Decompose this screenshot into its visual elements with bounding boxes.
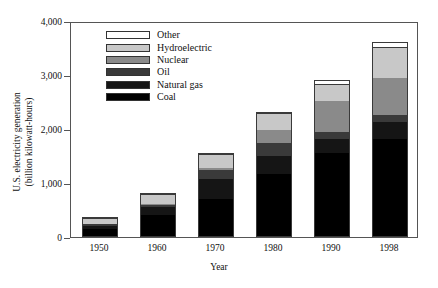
x-tick-label-1980: 1980 xyxy=(264,243,283,253)
bar-segment-1990-hydroelectric xyxy=(314,85,350,101)
legend-item-coal: Coal xyxy=(106,91,212,103)
legend-item-other: Other xyxy=(106,29,212,41)
bar-1970 xyxy=(198,154,234,237)
bar-segment-1990-coal xyxy=(314,153,350,237)
bar-segment-1960-coal xyxy=(140,215,176,237)
bar-segment-1970-nuclear xyxy=(198,168,234,169)
bar-segment-1998-nuclear xyxy=(372,78,408,115)
y-tick-label: 4,000 xyxy=(0,17,62,27)
legend-label: Natural gas xyxy=(157,80,203,90)
bar-segment-1990-nuclear xyxy=(314,101,350,132)
legend-item-oil: Oil xyxy=(106,66,212,78)
bar-segment-1998-oil xyxy=(372,115,408,122)
legend-label: Coal xyxy=(157,92,176,102)
legend-item-nuclear: Nuclear xyxy=(106,54,212,66)
bar-segment-1990-natural-gas xyxy=(314,139,350,153)
x-axis-title: Year xyxy=(0,262,438,272)
chart-legend: OtherHydroelectricNuclearOilNatural gasC… xyxy=(106,29,212,103)
legend-label: Nuclear xyxy=(157,55,189,65)
bar-segment-1970-coal xyxy=(198,199,234,237)
x-tick-label-1998: 1998 xyxy=(380,243,399,253)
bar-segment-1980-hydroelectric xyxy=(256,114,292,129)
y-tick-mark xyxy=(64,238,70,239)
bar-segment-1960-natural-gas xyxy=(140,207,176,216)
bar-segment-1970-hydroelectric xyxy=(198,155,234,169)
x-tick-label-1960: 1960 xyxy=(148,243,167,253)
legend-swatch-nuclear xyxy=(106,56,150,64)
x-tick-label-1950: 1950 xyxy=(90,243,109,253)
legend-swatch-natural-gas xyxy=(106,81,150,89)
legend-label: Oil xyxy=(157,67,170,77)
legend-label: Other xyxy=(157,30,180,40)
bar-segment-1970-oil xyxy=(198,170,234,180)
y-tick-label: 3,000 xyxy=(0,71,62,81)
bar-segment-1950-natural-gas xyxy=(82,226,118,228)
bar-segment-1960-other xyxy=(140,193,176,195)
bar-segment-1950-oil xyxy=(82,224,118,226)
legend-item-hydroelectric: Hydroelectric xyxy=(106,41,212,53)
legend-swatch-hydroelectric xyxy=(106,44,150,52)
bar-segment-1950-other xyxy=(82,217,118,219)
bar-segment-1990-oil xyxy=(314,132,350,138)
legend-swatch-oil xyxy=(106,68,150,76)
bar-1980 xyxy=(256,113,292,237)
y-axis: 01,0002,0003,0004,000 xyxy=(0,0,70,288)
bar-segment-1990-other xyxy=(314,80,350,85)
bar-segment-1950-coal xyxy=(82,229,118,237)
x-tick-label-1970: 1970 xyxy=(206,243,225,253)
bar-1990 xyxy=(314,80,350,237)
bar-segment-1980-oil xyxy=(256,143,292,156)
bar-1998 xyxy=(372,42,408,237)
bar-segment-1980-other xyxy=(256,112,292,114)
bar-segment-1960-oil xyxy=(140,204,176,207)
legend-label: Hydroelectric xyxy=(157,43,212,53)
bar-segment-1998-natural-gas xyxy=(372,122,408,139)
bar-segment-1998-hydroelectric xyxy=(372,48,408,78)
bar-1960 xyxy=(140,195,176,237)
bar-1950 xyxy=(82,219,118,237)
y-tick-label: 0 xyxy=(0,233,62,243)
bar-segment-1980-nuclear xyxy=(256,130,292,144)
bar-segment-1960-nuclear xyxy=(140,204,176,205)
bar-segment-1970-other xyxy=(198,153,234,155)
y-tick-label: 1,000 xyxy=(0,179,62,189)
bar-segment-1980-coal xyxy=(256,174,292,237)
bar-segment-1950-hydroelectric xyxy=(82,219,118,224)
x-tick-label-1990: 1990 xyxy=(322,243,341,253)
bar-segment-1998-coal xyxy=(372,139,408,237)
bar-segment-1970-natural-gas xyxy=(198,179,234,199)
legend-swatch-other xyxy=(106,31,150,39)
chart-container: U.S. electricity generation (billion kil… xyxy=(0,0,438,288)
y-tick-label: 2,000 xyxy=(0,125,62,135)
legend-item-natural-gas: Natural gas xyxy=(106,79,212,91)
legend-swatch-coal xyxy=(106,93,150,101)
bar-segment-1960-hydroelectric xyxy=(140,195,176,203)
bar-segment-1998-other xyxy=(372,42,408,48)
bar-segment-1980-natural-gas xyxy=(256,156,292,174)
